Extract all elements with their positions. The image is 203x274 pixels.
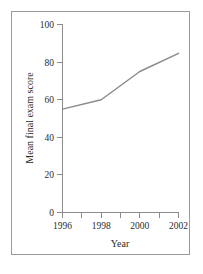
- y-axis-title: Mean final exam score: [24, 72, 35, 164]
- y-tick-label-60: 60: [45, 95, 55, 105]
- y-tick-label-40: 40: [45, 133, 55, 143]
- line-chart-canvas: 100 80 60 40 20 0 1996 1998 2000 2002 Ye…: [0, 0, 203, 274]
- y-tick-label-20: 20: [45, 170, 55, 180]
- x-axis-title: Year: [111, 238, 130, 249]
- chart-figure: 100 80 60 40 20 0 1996 1998 2000 2002 Ye…: [0, 0, 203, 274]
- x-tick-label-2002: 2002: [169, 221, 188, 231]
- x-tick-label-1998: 1998: [92, 221, 111, 231]
- y-tick-label-100: 100: [40, 20, 55, 30]
- y-tick-label-0: 0: [49, 208, 54, 218]
- x-tick-label-2000: 2000: [130, 221, 149, 231]
- x-tick-label-1996: 1996: [53, 221, 72, 231]
- exam-score-line: [63, 53, 179, 109]
- y-tick-label-80: 80: [45, 58, 55, 68]
